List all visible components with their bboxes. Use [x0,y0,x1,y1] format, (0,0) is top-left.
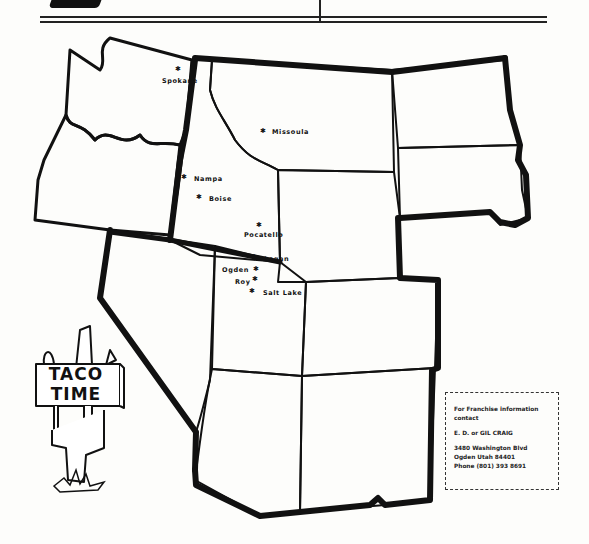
info-address: 3480 Washington Blvd [454,444,550,453]
city-star-icon: ✱ [196,194,202,201]
info-city: Ogden Utah 84401 [454,453,550,462]
state-oregon [35,115,180,235]
state-new-mexico [300,368,435,512]
city-star-icon: ✱ [252,276,258,283]
info-line-1: For Franchise information [454,405,550,414]
state-wyoming [278,170,400,282]
city-label-pocatello: Pocatello [244,231,283,239]
city-star-icon: ✱ [181,174,187,181]
taco-time-sign: TACO TIME [36,362,116,406]
city-star-icon: ✱ [256,222,262,229]
info-line-2: contact [454,414,550,423]
city-label-boise: Boise [209,195,232,203]
state-north-dakota [392,60,520,148]
city-label-ogden: Ogden [222,266,249,274]
logo-line-time: TIME [36,384,116,404]
info-phone: Phone (801) 393 8691 [454,462,550,471]
city-label-salt-lake: Salt Lake [263,289,302,297]
logo-line-taco: TACO [36,364,116,384]
city-label-nampa: Nampa [194,175,223,183]
city-star-icon: ✱ [249,288,255,295]
info-contact-name: E. D. or GIL CRAIG [454,429,550,438]
state-colorado [302,278,438,376]
city-star-icon: ✱ [175,66,181,73]
state-montana [210,60,394,172]
city-label-missoula: Missoula [272,128,309,136]
city-star-icon: ✱ [251,254,257,261]
taco-time-logo-drawing [24,320,134,500]
city-star-icon: ✱ [253,266,259,273]
city-star-icon: ✱ [260,128,266,135]
city-label-spokane: Spokane [162,77,198,85]
city-label-roy: Roy [235,278,251,286]
city-label-logan: Logan [264,255,289,263]
franchise-info-box: For Franchise information contact E. D. … [445,392,559,490]
